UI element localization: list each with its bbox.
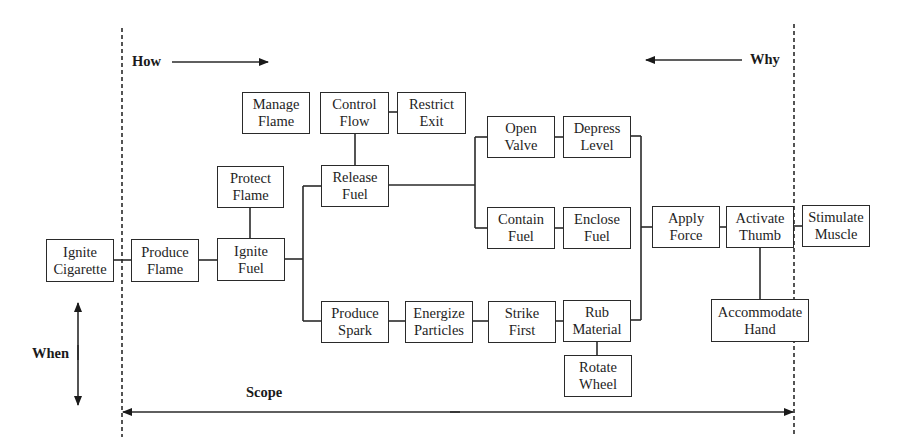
node-accommodate-hand: Accommodate Hand [711, 299, 809, 342]
fast-diagram: How Why When Scope Ignite Cigarette Prod… [0, 0, 903, 446]
how-label: How [132, 53, 161, 70]
node-text-line1: Apply [668, 210, 704, 227]
node-text-line2: Flame [258, 113, 294, 130]
node-text-line1: Manage [253, 96, 300, 113]
node-text-line1: Produce [331, 305, 379, 322]
node-text-line1: Ignite [63, 244, 97, 261]
node-text-line1: Open [505, 120, 536, 137]
node-text-line1: Enclose [574, 211, 620, 228]
node-text-line2: Particles [414, 322, 464, 339]
node-produce-flame: Produce Flame [131, 239, 199, 282]
node-text-line1: Accommodate [718, 304, 803, 321]
node-strike-first: Strike First [488, 301, 556, 343]
node-text-line1: Energize [413, 305, 464, 322]
node-text-line1: Depress [574, 120, 621, 137]
node-text-line1: Activate [735, 210, 784, 227]
node-text-line1: Strike [505, 305, 540, 322]
node-control-flow: Control Flow [320, 92, 389, 134]
node-text-line1: Release [332, 169, 377, 186]
node-text-line2: Force [669, 227, 702, 244]
node-enclose-fuel: Enclose Fuel [563, 207, 631, 249]
node-text-line1: Rub [585, 304, 609, 321]
node-produce-spark: Produce Spark [321, 301, 389, 343]
scope-label: Scope [246, 384, 282, 401]
node-manage-flame: Manage Flame [242, 92, 310, 134]
node-text-line2: Material [572, 321, 621, 338]
node-text-line1: Control [332, 96, 376, 113]
node-text-line2: Exit [419, 113, 443, 130]
node-energize-particles: Energize Particles [405, 301, 473, 343]
node-text-line2: Fuel [342, 186, 368, 203]
when-label: When [32, 345, 69, 362]
node-text-line2: Fuel [238, 260, 264, 277]
node-text-line2: Thumb [739, 227, 781, 244]
node-open-valve: Open Valve [487, 116, 555, 158]
node-protect-flame: Protect Flame [217, 166, 284, 208]
node-rotate-wheel: Rotate Wheel [564, 355, 632, 397]
node-text-line2: Flame [232, 187, 268, 204]
node-text-line2: Level [580, 137, 613, 154]
node-activate-thumb: Activate Thumb [726, 206, 794, 248]
node-text-line1: Stimulate [808, 209, 864, 226]
node-text-line1: Restrict [409, 96, 454, 113]
node-text-line2: Fuel [508, 228, 534, 245]
node-ignite-fuel: Ignite Fuel [217, 238, 285, 281]
node-text-line1: Produce [141, 244, 189, 261]
node-rub-material: Rub Material [563, 300, 631, 342]
node-contain-fuel: Contain Fuel [487, 207, 555, 249]
node-text-line2: Spark [338, 322, 372, 339]
node-text-line1: Contain [498, 211, 544, 228]
node-text-line1: Ignite [234, 243, 268, 260]
node-apply-force: Apply Force [652, 206, 720, 248]
node-text-line2: Fuel [584, 228, 610, 245]
node-text-line2: Valve [504, 137, 537, 154]
node-ignite-cigarette: Ignite Cigarette [46, 239, 114, 282]
node-stimulate-muscle: Stimulate Muscle [802, 205, 870, 247]
node-depress-level: Depress Level [563, 116, 631, 158]
node-text-line2: Wheel [579, 376, 617, 393]
node-text-line2: Flow [340, 113, 370, 130]
node-text-line2: First [509, 322, 536, 339]
node-text-line2: Cigarette [53, 261, 106, 278]
node-text-line1: Rotate [579, 359, 617, 376]
node-text-line1: Protect [230, 170, 271, 187]
node-text-line2: Muscle [815, 226, 858, 243]
node-restrict-exit: Restrict Exit [397, 92, 466, 134]
node-text-line2: Hand [744, 321, 775, 338]
why-label: Why [750, 51, 780, 68]
node-release-fuel: Release Fuel [321, 165, 389, 207]
node-text-line2: Flame [147, 261, 183, 278]
